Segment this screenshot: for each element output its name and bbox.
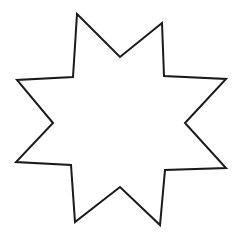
eight-point-star-outline	[16, 14, 226, 225]
star-diagram	[0, 0, 241, 250]
